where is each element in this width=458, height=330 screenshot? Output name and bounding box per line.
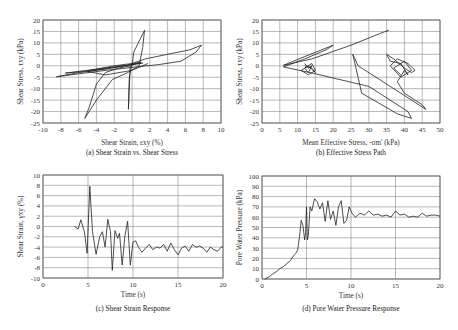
chart-caption: (c) Shear Strain Response	[96, 305, 170, 313]
y-tick-label: 50	[252, 224, 260, 232]
y-tick-label: 100	[249, 173, 260, 181]
x-tick-label: 15	[392, 282, 400, 290]
y-tick-label: -5	[253, 74, 259, 82]
y-axis-label: Shear Stress, τxy (kPa)	[236, 38, 244, 105]
x-tick-label: 40	[401, 126, 409, 134]
y-tick-label: 4	[37, 202, 41, 210]
y-axis-label: Shear Stress, τxy (kPa)	[17, 38, 25, 105]
y-tick-label: 20	[33, 17, 41, 25]
data-series	[265, 199, 440, 279]
x-tick-label: 0	[260, 282, 264, 290]
y-tick-label: -20	[31, 108, 41, 116]
x-tick-label: 10	[348, 282, 356, 290]
x-tick-label: -8	[58, 126, 64, 134]
x-tick-label: 25	[348, 126, 356, 134]
chart-caption: (d) Pore Water Pressure Response	[302, 305, 400, 313]
y-tick-label: -5	[34, 74, 40, 82]
y-tick-label: -15	[250, 97, 260, 105]
y-tick-label: -15	[31, 97, 41, 105]
y-tick-label: -2	[34, 233, 40, 241]
y-tick-label: -4	[34, 244, 40, 252]
gridlines	[43, 20, 221, 123]
x-tick-label: 6	[184, 126, 188, 134]
x-tick-label: 20	[437, 282, 445, 290]
y-axis-label: Pore Water Pressure (kPa)	[236, 189, 244, 265]
y-tick-label: -10	[31, 275, 41, 283]
x-tick-label: 50	[437, 126, 445, 134]
x-tick-label: -4	[93, 126, 99, 134]
y-tick-label: -8	[34, 264, 40, 272]
x-axis-label: Time (s)	[121, 291, 146, 299]
x-tick-label: 20	[330, 126, 338, 134]
x-tick-label: -2	[111, 126, 117, 134]
y-tick-label: 15	[252, 28, 260, 36]
y-tick-label: 60	[252, 214, 260, 222]
x-tick-label: 0	[130, 126, 134, 134]
chart-b: 05101520253035404550-25-20-15-10-5051015…	[236, 17, 444, 158]
x-tick-label: 4	[166, 126, 170, 134]
y-tick-label: 5	[256, 51, 260, 59]
x-axis-label: Shear Strain, εxy (%)	[101, 139, 163, 147]
x-tick-label: 35	[383, 126, 391, 134]
x-tick-label: 10	[294, 126, 302, 134]
y-tick-label: 30	[252, 245, 260, 253]
figure: -10-8-6-4-20246810-25-20-15-10-505101520…	[0, 0, 458, 330]
y-tick-label: 15	[33, 28, 41, 36]
x-tick-label: 30	[365, 126, 373, 134]
chart-c: 05101520-10-8-6-4-20246810Time (s)Shear …	[17, 172, 227, 314]
x-axis-label: Mean Effective Stress, -σm' (kPa)	[302, 139, 400, 147]
gridlines	[262, 176, 440, 279]
y-tick-label: -10	[31, 85, 41, 93]
y-tick-label: -20	[250, 108, 260, 116]
x-tick-label: 2	[148, 126, 152, 134]
y-tick-label: 5	[37, 51, 41, 59]
y-tick-label: -6	[34, 254, 40, 262]
y-tick-label: -25	[31, 120, 41, 128]
data-series	[56, 30, 201, 118]
x-tick-label: 8	[201, 126, 205, 134]
chart-caption: (a) Shear Strain vs. Shear Stress	[86, 149, 178, 157]
y-tick-label: 0	[256, 276, 260, 284]
x-tick-label: 5	[86, 281, 90, 289]
x-tick-label: 15	[175, 281, 183, 289]
x-tick-label: 15	[312, 126, 320, 134]
y-tick-label: 10	[33, 39, 41, 47]
y-tick-label: 2	[37, 213, 41, 221]
x-tick-label: 0	[260, 126, 264, 134]
y-tick-label: 20	[252, 255, 260, 263]
y-tick-label: -10	[250, 85, 260, 93]
y-tick-label: -25	[250, 120, 260, 128]
y-tick-label: 8	[37, 182, 41, 190]
x-tick-label: -6	[76, 126, 82, 134]
x-tick-label: 5	[305, 282, 309, 290]
y-tick-label: 0	[37, 62, 41, 70]
y-tick-label: 90	[252, 183, 260, 191]
chart-d: 051015200102030405060708090100Time (s)Po…	[236, 173, 444, 314]
y-tick-label: 10	[252, 39, 260, 47]
x-tick-label: 10	[218, 126, 226, 134]
y-tick-label: 0	[256, 62, 260, 70]
x-tick-label: 5	[278, 126, 282, 134]
y-tick-label: 10	[33, 172, 41, 180]
y-tick-label: 10	[252, 265, 260, 273]
y-tick-label: 0	[37, 223, 41, 231]
x-axis-label: Time (s)	[339, 292, 364, 300]
y-tick-label: 80	[252, 193, 260, 201]
x-tick-label: 45	[419, 126, 427, 134]
x-tick-label: 10	[130, 281, 138, 289]
y-tick-label: 20	[252, 17, 260, 25]
gridlines	[43, 175, 223, 278]
chart-a: -10-8-6-4-20246810-25-20-15-10-505101520…	[17, 17, 225, 158]
y-tick-label: 6	[37, 192, 41, 200]
y-axis-label: Shear Strain, γxy (%)	[17, 195, 25, 257]
x-tick-label: 0	[41, 281, 45, 289]
y-tick-label: 40	[252, 234, 260, 242]
chart-caption: (b) Effective Stress Path	[316, 149, 386, 157]
x-tick-label: 20	[220, 281, 228, 289]
y-tick-label: 70	[252, 203, 260, 211]
